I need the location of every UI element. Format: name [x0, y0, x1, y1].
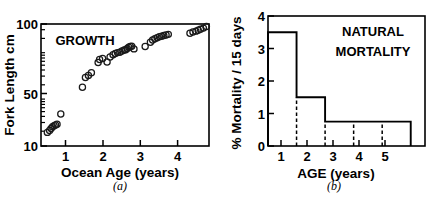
panel-caption: (a): [113, 179, 127, 193]
y-axis-title: % Mortality / 15 days: [229, 17, 244, 150]
x-tick-label: 1: [277, 149, 284, 164]
y-tick-labels: 100 50 10: [16, 17, 38, 154]
y-axis-title: Fork Length cm: [2, 34, 17, 135]
y-tick-label: 3: [258, 42, 265, 57]
mortality-annotation-line1: NATURAL: [342, 24, 404, 39]
scatter-point: [142, 43, 148, 49]
two-panel-figure: 100 50 10 1 2 3 4 Ocean Age (years) Fork…: [0, 0, 437, 209]
x-tick-labels: 1 2 3 4: [62, 149, 182, 164]
panel-caption: (b): [327, 179, 341, 193]
growth-annotation: GROWTH: [55, 33, 114, 48]
caption-a-svg: (a): [0, 168, 216, 208]
x-major-ticks: [66, 140, 178, 146]
x-tick-label: 5: [381, 149, 388, 164]
y-tick-label: 1: [258, 107, 265, 122]
scatter-point: [58, 111, 64, 117]
x-tick-label: 4: [355, 149, 363, 164]
x-tick-label: 2: [99, 149, 106, 164]
caption-b-svg: (b): [216, 168, 437, 208]
x-tick-label: 3: [329, 149, 336, 164]
y-tick-label: 10: [24, 139, 38, 154]
x-tick-label: 2: [303, 149, 310, 164]
y-tick-label: 4: [258, 9, 266, 24]
x-tick-label: 3: [137, 149, 144, 164]
y-tick-label: 2: [258, 74, 265, 89]
y-tick-label: 100: [16, 17, 38, 32]
scatter-point: [79, 84, 85, 90]
panel-b-mortality: 0 1 2 3 4 1 2 3 4 5 AGE (years) % Mortal…: [216, 0, 437, 209]
x-tick-labels: 1 2 3 4 5: [277, 149, 388, 164]
mortality-annotation-line2: MORTALITY: [336, 44, 411, 59]
y-tick-labels: 0 1 2 3 4: [258, 9, 266, 154]
y-tick-label: 0: [258, 139, 265, 154]
x-tick-label: 1: [62, 149, 69, 164]
x-tick-label: 4: [174, 149, 182, 164]
panel-a-growth: 100 50 10 1 2 3 4 Ocean Age (years) Fork…: [0, 0, 216, 209]
y-tick-label: 50: [24, 87, 38, 102]
